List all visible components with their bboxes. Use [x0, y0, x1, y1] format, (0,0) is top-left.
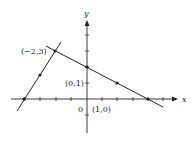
label-point-neg2-3: (−2,3): [21, 47, 47, 56]
point-0-2: [85, 65, 88, 68]
label-point-0-1: (0,1): [65, 79, 84, 88]
point-2-1: [115, 81, 118, 84]
coordinate-diagram: x y 0 (−2,3) (0,1) (1,0): [0, 0, 194, 142]
line-2: [46, 46, 163, 107]
origin-label: 0: [78, 105, 83, 114]
point-4-0: [146, 97, 149, 100]
y-axis-label: y: [83, 9, 89, 18]
point-neg4-0: [22, 97, 25, 100]
x-axis-arrow-icon: [172, 97, 178, 102]
y-axis-arrow-icon: [85, 20, 90, 26]
point-neg2-3: [53, 49, 56, 52]
x-axis-label: x: [182, 95, 187, 104]
point-neg3-1p5: [38, 73, 41, 76]
label-point-1-0: (1,0): [92, 105, 111, 114]
points: [22, 49, 149, 100]
